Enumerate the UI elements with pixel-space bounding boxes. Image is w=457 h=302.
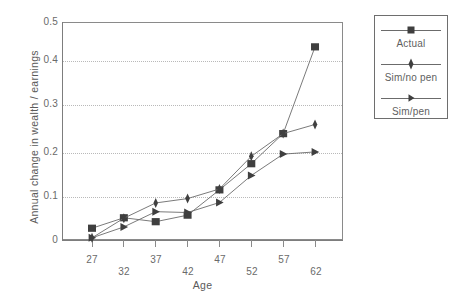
- square-icon: [406, 25, 417, 36]
- series-line: [92, 47, 315, 228]
- data-point: [152, 208, 160, 216]
- data-point: [88, 225, 96, 232]
- data-point: [153, 198, 158, 208]
- legend-label-sim-no-pen: Sim/no pen: [375, 72, 447, 83]
- legend: Actual Sim/no pen Sim/pen: [374, 15, 448, 119]
- diamond-icon: [406, 58, 417, 71]
- legend-label-actual: Actual: [375, 38, 447, 49]
- data-point: [120, 223, 128, 231]
- data-point: [280, 150, 288, 158]
- legend-sample-sim-no-pen: [375, 58, 447, 70]
- data-point: [313, 119, 318, 129]
- data-point: [248, 171, 256, 179]
- data-point: [312, 148, 320, 156]
- series-line: [92, 152, 315, 238]
- legend-entry-actual[interactable]: Actual: [375, 24, 447, 49]
- series-sim-pen: [89, 148, 320, 242]
- legend-entry-sim-no-pen[interactable]: Sim/no pen: [375, 58, 447, 83]
- legend-sample-sim-pen: [375, 92, 447, 104]
- legend-label-sim-pen: Sim/pen: [375, 106, 447, 117]
- chart-figure: 0.5 0.4 0.3 0.2 0.1 0 27 32 37 42 47 52 …: [0, 0, 457, 302]
- series-actual: [88, 43, 319, 232]
- data-point: [249, 151, 254, 161]
- series-sim-no-pen: [90, 119, 318, 242]
- data-point: [311, 43, 319, 50]
- legend-sample-actual: [375, 24, 447, 36]
- data-point: [152, 218, 160, 225]
- legend-entry-sim-pen[interactable]: Sim/pen: [375, 92, 447, 117]
- triangle-right-icon: [406, 93, 417, 104]
- data-point: [185, 194, 190, 204]
